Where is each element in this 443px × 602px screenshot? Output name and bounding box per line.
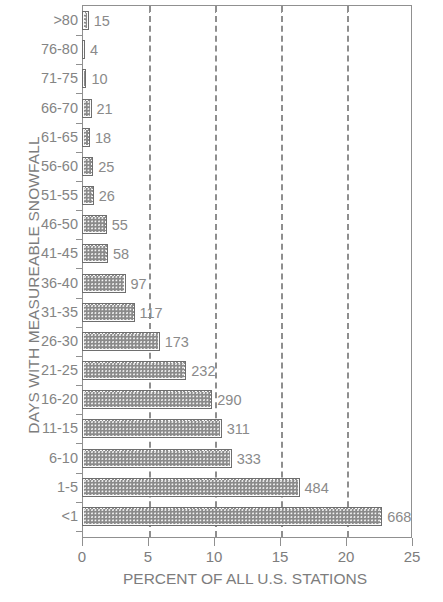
bar-chart: DAYS WITH MEASUREABLE SNOWFALL >8076-807… <box>0 0 443 602</box>
bar-46-50 <box>82 215 107 234</box>
y-tick-label-46-50: 46-50 <box>41 215 78 234</box>
bars-layer: 1541021182526555897117173232290311333484… <box>82 5 443 538</box>
bar-value-label: 58 <box>113 246 129 262</box>
y-axis-tick-labels: >8076-8071-7566-7061-6556-6051-5546-5041… <box>0 5 78 538</box>
x-tick-label-25: 25 <box>404 548 421 565</box>
x-tick-label-15: 15 <box>272 548 289 565</box>
bar-fill-pattern <box>84 101 90 116</box>
x-axis-tick-5 <box>148 538 149 546</box>
bar-row: 18 <box>82 128 412 147</box>
bar->80 <box>82 11 89 30</box>
bar-fill-pattern <box>84 130 88 145</box>
x-axis-tick-15 <box>280 538 281 546</box>
bar-value-label: 97 <box>131 276 147 292</box>
bar-value-label: 26 <box>99 188 115 204</box>
bar-row: 21 <box>82 99 412 118</box>
y-tick-label-76-80: 76-80 <box>41 40 78 59</box>
bar-value-label: 484 <box>305 480 329 496</box>
y-tick-label-16-20: 16-20 <box>41 390 78 409</box>
bar-row: 58 <box>82 244 412 263</box>
bar-row: 55 <box>82 215 412 234</box>
bar-row: 97 <box>82 274 412 293</box>
bar-value-label: 668 <box>387 509 411 525</box>
bar-row: 173 <box>82 332 412 351</box>
bar-fill-pattern <box>84 363 184 378</box>
bar-fill-pattern <box>84 276 124 291</box>
y-tick-label-26-30: 26-30 <box>41 332 78 351</box>
bar-fill-pattern <box>84 421 220 436</box>
y-tick-label-36-40: 36-40 <box>41 274 78 293</box>
bar-41-45 <box>82 244 108 263</box>
bar-fill-pattern <box>84 159 91 174</box>
bar-row: 4 <box>82 40 412 59</box>
bar-value-label: 117 <box>140 305 163 321</box>
bar-value-label: 15 <box>94 13 110 29</box>
bar-36-40 <box>82 274 126 293</box>
bar-51-55 <box>82 186 94 205</box>
bar-fill-pattern <box>84 509 380 524</box>
bar-66-70 <box>82 99 92 118</box>
bar-11-15 <box>82 419 222 438</box>
bar-value-label: 10 <box>91 71 107 87</box>
y-tick-label-6-10: 6-10 <box>49 449 78 468</box>
bar-row: 484 <box>82 478 412 497</box>
bar-1-5 <box>82 478 300 497</box>
y-tick-label-11-15: 11-15 <box>42 419 78 438</box>
bar-value-label: 232 <box>191 363 215 379</box>
bar-fill-pattern <box>84 451 230 466</box>
y-tick-label-66-70: 66-70 <box>41 99 78 118</box>
bar-71-75 <box>82 69 86 88</box>
y-tick-label-1-5: 1-5 <box>57 478 78 497</box>
bar-value-label: 290 <box>217 392 241 408</box>
bar-fill-pattern <box>84 246 106 261</box>
bar-76-80 <box>82 40 85 59</box>
bar-row: 232 <box>82 361 412 380</box>
bar-<1 <box>82 507 382 526</box>
x-tick-label-0: 0 <box>78 548 86 565</box>
y-tick-label-71-75: 71-75 <box>41 69 78 88</box>
bar-value-label: 173 <box>165 334 189 350</box>
bar-value-label: 18 <box>95 130 111 146</box>
y-tick-label-51-55: 51-55 <box>41 186 78 205</box>
bar-fill-pattern <box>84 480 298 495</box>
bar-row: 311 <box>82 419 412 438</box>
bar-value-label: 21 <box>97 101 113 117</box>
bar-row: 25 <box>82 157 412 176</box>
bar-value-label: 55 <box>112 217 128 233</box>
bar-56-60 <box>82 157 93 176</box>
x-axis-tick-0 <box>82 538 83 546</box>
x-tick-label-5: 5 <box>144 548 152 565</box>
bar-value-label: 333 <box>237 451 261 467</box>
bar-row: 15 <box>82 11 412 30</box>
bar-26-30 <box>82 332 160 351</box>
bar-value-label: 311 <box>227 421 250 437</box>
x-axis-tick-25 <box>412 538 413 546</box>
x-axis-tick-20 <box>346 538 347 546</box>
bar-row: 26 <box>82 186 412 205</box>
bar-fill-pattern <box>84 305 133 320</box>
bar-row: 668 <box>82 507 412 526</box>
x-tick-label-10: 10 <box>206 548 223 565</box>
bar-16-20 <box>82 390 212 409</box>
bar-21-25 <box>82 361 186 380</box>
y-tick-label->80: >80 <box>53 11 78 30</box>
bar-fill-pattern <box>84 392 210 407</box>
bar-fill-pattern <box>84 188 92 203</box>
y-tick-label-56-60: 56-60 <box>41 157 78 176</box>
y-tick-label-31-35: 31-35 <box>41 303 78 322</box>
bar-61-65 <box>82 128 90 147</box>
bar-row: 117 <box>82 303 412 322</box>
bar-fill-pattern <box>84 334 158 349</box>
x-axis-title: PERCENT OF ALL U.S. STATIONS <box>55 570 435 588</box>
bar-fill-pattern <box>84 217 105 232</box>
y-tick-label-61-65: 61-65 <box>41 128 78 147</box>
x-tick-label-20: 20 <box>338 548 355 565</box>
x-axis-ticks: 0510152025 <box>82 538 443 568</box>
y-tick-label-41-45: 41-45 <box>41 244 78 263</box>
bar-row: 290 <box>82 390 412 409</box>
bar-6-10 <box>82 449 232 468</box>
bar-value-label: 4 <box>90 42 98 58</box>
bar-fill-pattern <box>84 13 87 28</box>
y-tick-label-21-25: 21-25 <box>41 361 78 380</box>
bar-31-35 <box>82 303 135 322</box>
